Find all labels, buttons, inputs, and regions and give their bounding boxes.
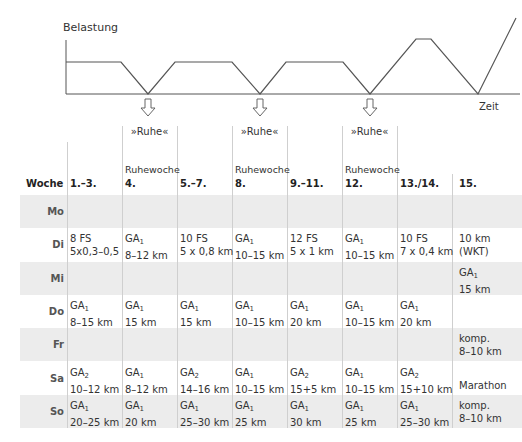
row-stripe <box>20 328 522 361</box>
column-divider <box>122 126 123 428</box>
week-column-header: 12. <box>345 178 363 189</box>
plan-cell: GA115 km <box>459 266 490 296</box>
plan-cell: 8 FS5x0,3–0,5 <box>70 232 119 258</box>
plan-cell: GA115 km <box>180 299 211 329</box>
day-label-fr: Fr <box>20 339 64 350</box>
plan-cell: GA120 km <box>400 299 431 329</box>
plan-cell: GA120 km <box>125 399 156 429</box>
plan-cell: GA210–12 km <box>70 366 119 396</box>
week-column-header: 9.–11. <box>290 178 323 189</box>
plan-cell: 10 km(WKT) <box>459 232 490 258</box>
plan-cell: GA18–12 km <box>125 232 168 262</box>
day-label-mo: Mo <box>20 206 64 217</box>
day-label-sa: Sa <box>20 373 64 384</box>
plan-cell: komp.8–10 km <box>459 332 502 358</box>
plan-cell: GA215+10 km <box>400 366 453 396</box>
plan-cell: GA215+5 km <box>290 366 336 396</box>
column-divider <box>67 142 68 428</box>
plan-cell: GA125–30 km <box>180 399 229 429</box>
down-arrow-icon <box>141 99 155 116</box>
rest-week-note: Ruhewoche <box>345 164 400 175</box>
down-arrow-icon <box>363 99 377 116</box>
rest-label: »Ruhe« <box>122 126 177 137</box>
plan-cell: Marathon <box>459 366 507 392</box>
plan-cell: GA110–15 km <box>235 366 284 396</box>
day-label-mi: Mi <box>20 273 64 284</box>
plan-cell: 12 FS5 x 1 km <box>290 232 334 258</box>
plan-cell: GA110–15 km <box>345 299 394 329</box>
rest-label: »Ruhe« <box>342 126 397 137</box>
plan-cell: GA110–15 km <box>235 299 284 329</box>
plan-cell: GA125 km <box>345 399 376 429</box>
plan-cell: GA18–12 km <box>125 366 168 396</box>
plan-cell: GA110–15 km <box>345 232 394 262</box>
plan-cell: GA110–15 km <box>345 366 394 396</box>
day-label-di: Di <box>20 239 64 250</box>
plan-cell: GA110–15 km <box>235 232 284 262</box>
plan-cell: GA214–16 km <box>180 366 229 396</box>
plan-cell: GA120 km <box>290 299 321 329</box>
down-arrow-icon <box>253 99 267 116</box>
rest-week-note: Ruhewoche <box>235 164 290 175</box>
x-axis-label: Zeit <box>479 101 499 112</box>
plan-cell: GA125 km <box>235 399 266 429</box>
column-divider <box>397 142 398 428</box>
day-label-so: So <box>20 406 64 417</box>
load-curve-chart <box>0 0 522 130</box>
row-stripe <box>20 195 522 228</box>
plan-cell: GA18–15 km <box>70 299 113 329</box>
plan-cell: 10 FS7 x 0,4 km <box>400 232 453 258</box>
column-divider <box>287 142 288 428</box>
week-column-header: 8. <box>235 178 246 189</box>
plan-cell: 10 FS5 x 0,8 km <box>180 232 233 258</box>
load-curve-line <box>66 18 516 94</box>
corner-label-woche: Woche <box>26 178 63 189</box>
column-divider <box>177 142 178 428</box>
y-axis-label: Belastung <box>63 21 118 34</box>
rest-week-note: Ruhewoche <box>125 164 180 175</box>
week-column-header: 13./14. <box>400 178 439 189</box>
week-column-header: 5.–7. <box>180 178 207 189</box>
plan-cell: GA120–25 km <box>70 399 119 429</box>
plan-cell: GA130 km <box>290 399 321 429</box>
rest-label: »Ruhe« <box>232 126 287 137</box>
column-divider <box>232 126 233 428</box>
row-stripe <box>20 262 522 295</box>
plan-cell: komp.8–10 km <box>459 399 502 425</box>
week-column-header: 1.–3. <box>70 178 97 189</box>
week-column-header: 4. <box>125 178 136 189</box>
plan-cell: GA125–30 km <box>400 399 449 429</box>
rest-arrows <box>141 99 377 116</box>
plan-cell: GA115 km <box>125 299 156 329</box>
column-divider <box>342 126 343 428</box>
week-column-header: 15. <box>459 178 477 189</box>
day-label-do: Do <box>20 306 64 317</box>
